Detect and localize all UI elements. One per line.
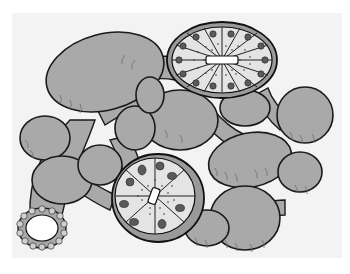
lower-center-sectioned-acinus bbox=[112, 154, 204, 242]
upper-right-sectioned-acinus bbox=[167, 22, 277, 98]
figure-canvas bbox=[0, 0, 350, 274]
acinar-gland-illustration bbox=[0, 0, 350, 274]
